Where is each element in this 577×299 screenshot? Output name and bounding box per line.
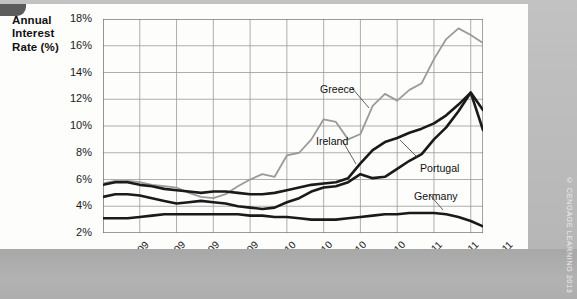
series-label-portugal: Portugal [420,162,459,174]
y-axis-tick-label: 16% [58,39,92,51]
series-label-ireland: Ireland [316,135,348,147]
series-label-germany: Germany [414,190,458,202]
page-background: Annual Interest Rate (%) 2%4%6%8%10%12%1… [0,0,577,299]
y-axis-tick-label: 2% [58,226,92,238]
series-line-germany [103,213,483,226]
series-line-ireland [103,93,483,195]
copyright-credit: © CENGAGE LEARNING 2013 [565,176,574,293]
series-label-greece: Greece [320,83,355,95]
page-lower-area [0,249,577,299]
y-axis-tick-label: 8% [58,146,92,158]
y-axis-tick-label: 12% [58,92,92,104]
y-axis-tick-label: 6% [58,173,92,185]
annotation-leader-line [400,140,417,157]
y-axis-tick-label: 14% [58,66,92,78]
y-axis-tick-label: 18% [58,12,92,24]
figure-panel: Annual Interest Rate (%) 2%4%6%8%10%12%1… [0,4,528,249]
y-axis-tick-label: 10% [58,119,92,131]
y-axis-tick-label: 4% [58,199,92,211]
